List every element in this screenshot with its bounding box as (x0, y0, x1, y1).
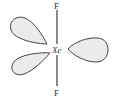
lone-pair-lobe-lower-left (12, 53, 50, 75)
atom-label-f-top: F (54, 1, 59, 11)
atom-label-f-bottom: F (54, 88, 59, 98)
xef2-structure-diagram: F Xe F (0, 0, 113, 104)
atom-label-xe: Xe (51, 45, 62, 55)
lone-pair-lobe-right (68, 38, 108, 62)
lone-pair-lobe-upper-left (10, 17, 47, 44)
